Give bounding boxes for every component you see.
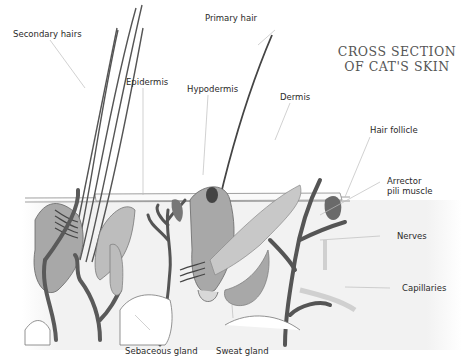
title-line-1: CROSS SECTION — [322, 44, 471, 59]
hair-bulb-top — [206, 187, 218, 203]
label-sweat-gland: Sweat gland — [216, 346, 269, 356]
label-capillaries: Capillaries — [402, 283, 446, 293]
label-arrector-line-2: pili muscle — [387, 186, 433, 196]
label-hypodermis: Hypodermis — [187, 84, 238, 94]
label-primary-hair: Primary hair — [205, 13, 257, 23]
label-nerves: Nerves — [397, 231, 427, 241]
label-secondary-hairs: Secondary hairs — [13, 29, 82, 39]
label-sebaceous-gland: Sebaceous gland — [125, 346, 198, 356]
dermis-region — [22, 200, 462, 350]
title-line-2: OF CAT'S SKIN — [322, 59, 471, 74]
label-arrector-line-1: Arrector — [387, 176, 421, 186]
diagram-canvas: CROSS SECTION OF CAT'S SKIN Secondary ha… — [0, 0, 471, 363]
diagram-title: CROSS SECTION OF CAT'S SKIN — [322, 44, 471, 74]
label-hair-follicle: Hair follicle — [370, 125, 418, 135]
label-arrector-pili-muscle: Arrector pili muscle — [387, 176, 433, 196]
label-epidermis: Epidermis — [126, 77, 168, 87]
label-dermis: Dermis — [280, 92, 310, 102]
